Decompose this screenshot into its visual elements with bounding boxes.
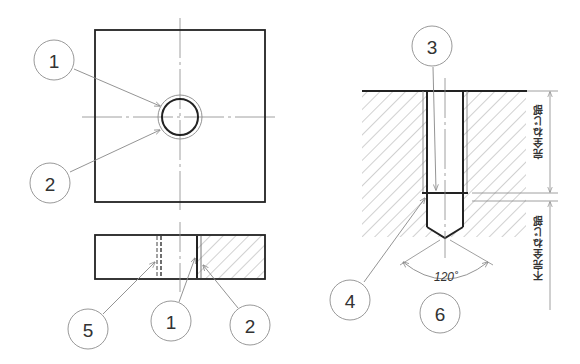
callout-label: 6 [435, 304, 446, 325]
callout-label: 5 [83, 320, 94, 341]
leader-line-1b [179, 258, 195, 302]
callout-bubble-1-side: 1 [151, 301, 191, 341]
callout-label: 2 [45, 174, 56, 195]
technical-drawing: 1 2 5 1 2 [0, 0, 580, 364]
angle-extension-left [400, 240, 440, 265]
callout-bubble-2: 2 [30, 163, 70, 203]
angle-label: 120˚ [434, 270, 459, 284]
callout-label: 1 [166, 312, 177, 333]
angle-extension-right [450, 240, 493, 265]
callout-bubble-3: 3 [412, 26, 452, 66]
callout-bubble-2-side: 2 [230, 305, 270, 345]
callout-bubble-1: 1 [34, 40, 74, 80]
tapped-hole-section: 120˚ 3 4 6 [330, 26, 558, 333]
side-section-view: 5 1 2 [68, 222, 270, 349]
incomplete-thread-label: 不完全ねじ部 [531, 215, 546, 281]
leader-line-1 [74, 69, 160, 106]
callout-label: 2 [245, 316, 256, 337]
complete-thread-label: 完全ねじ部 [531, 104, 546, 159]
callout-label: 1 [49, 51, 60, 72]
callout-label: 3 [427, 37, 438, 58]
callout-bubble-6: 6 [420, 293, 460, 333]
plan-view: 1 2 [30, 18, 276, 210]
callout-bubble-4: 4 [330, 280, 370, 320]
leader-line-5 [103, 262, 155, 314]
callout-bubble-5: 5 [68, 309, 108, 349]
callout-label: 4 [345, 291, 356, 312]
leader-line-2 [70, 130, 160, 172]
